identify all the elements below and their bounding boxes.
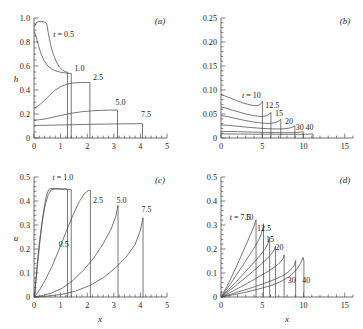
- y-tick-label: 0.5: [207, 173, 217, 182]
- x-tick-label: 2: [85, 301, 89, 310]
- curve-label: 2.5: [93, 196, 103, 205]
- panel-letter: (b): [340, 16, 351, 26]
- panel-letter: (c): [155, 175, 165, 185]
- y-tick-label: 1.0: [20, 14, 30, 23]
- curve-label: 2.5: [93, 73, 103, 82]
- curve-label: 7.5: [141, 110, 151, 119]
- x-tick-label: 3: [112, 301, 116, 310]
- y-tick-label: 0: [26, 134, 30, 143]
- y-tick-label: 0.2: [20, 110, 30, 119]
- curve-label: 10: [245, 213, 253, 222]
- curve-label: t = 0.5: [53, 30, 74, 39]
- curve-t-7.5: [221, 220, 256, 297]
- y-tick-label: 0: [26, 293, 30, 302]
- curve-t-40: [221, 134, 313, 138]
- curve-label: 20: [275, 243, 283, 252]
- y-tick-label: 0: [213, 134, 217, 143]
- panel-d: 05101500.10.20.30.40.5t = 7.51012.515203…: [181, 163, 363, 329]
- y-tick-label: 0.2: [207, 245, 217, 254]
- x-axis-title: x: [284, 314, 289, 324]
- y-tick-label: 0.1: [207, 269, 217, 278]
- curve-t-0.5: [35, 22, 68, 138]
- curve-label: 12.5: [257, 224, 271, 233]
- y-tick-label: 0.8: [20, 38, 30, 47]
- x-tick-label: 0: [32, 301, 36, 310]
- curve-t-15: [221, 116, 280, 138]
- y-tick-label: 0.2: [20, 245, 30, 254]
- curve-label: t = 10: [242, 91, 261, 100]
- curve-label: 7.5: [141, 205, 151, 214]
- y-tick-label: 0.20: [203, 38, 217, 47]
- curve-t-12.5: [221, 107, 271, 138]
- figure-container: 01234500.20.40.60.81.0t = 0.51.02.55.07.…: [0, 0, 363, 329]
- x-tick-label: 0: [219, 142, 223, 151]
- panel-a-plot: 01234500.20.40.60.81.0t = 0.51.02.55.07.…: [0, 0, 182, 165]
- x-tick-label: 15: [341, 301, 349, 310]
- curve-t-2.5: [35, 83, 90, 138]
- y-tick-label: 0.10: [203, 86, 217, 95]
- panel-d-plot: 05101500.10.20.30.40.5t = 7.51012.515203…: [181, 163, 363, 329]
- x-tick-label: 0: [32, 142, 36, 151]
- panel-a: 01234500.20.40.60.81.0t = 0.51.02.55.07.…: [0, 0, 182, 165]
- curve-label: 1.0: [74, 64, 84, 73]
- curve-t-5.0: [35, 205, 119, 297]
- y-tick-label: 0.4: [20, 86, 30, 95]
- curve-label: 5.0: [116, 196, 126, 205]
- x-tick-label: 5: [165, 142, 169, 151]
- curve-t-7.5: [35, 218, 144, 297]
- x-tick-label: 4: [138, 142, 142, 151]
- panel-letter: (a): [155, 16, 166, 26]
- x-tick-label: 10: [299, 142, 307, 151]
- curve-label: t = 1.0: [53, 173, 74, 182]
- panel-b-plot: 05101500.050.100.150.200.25t = 1012.5152…: [181, 0, 363, 165]
- x-tick-label: 10: [299, 301, 307, 310]
- y-axis-title: u: [14, 233, 19, 243]
- x-tick-label: 0: [219, 301, 223, 310]
- curve-label: 15: [266, 235, 274, 244]
- x-tick-label: 5: [165, 301, 169, 310]
- y-tick-label: 0.25: [203, 14, 217, 23]
- y-tick-label: 0.15: [203, 62, 217, 71]
- y-tick-label: 0.1: [20, 269, 30, 278]
- curve-label: 20: [285, 117, 293, 126]
- curve-label: 15: [275, 109, 283, 118]
- y-tick-label: 0.5: [20, 173, 30, 182]
- curve-label: 30: [296, 123, 304, 132]
- curve-label: 0.5: [59, 240, 69, 249]
- x-tick-label: 1: [59, 301, 63, 310]
- y-tick-label: 0.4: [207, 197, 217, 206]
- x-tick-label: 5: [260, 142, 264, 151]
- x-tick-label: 2: [85, 142, 89, 151]
- x-tick-label: 1: [59, 142, 63, 151]
- x-axis-title: x: [97, 314, 102, 324]
- x-tick-label: 5: [260, 301, 264, 310]
- panel-b: 05101500.050.100.150.200.25t = 1012.5152…: [181, 0, 363, 165]
- x-tick-label: 3: [112, 142, 116, 151]
- curve-label: 40: [302, 276, 310, 285]
- y-tick-label: 0.3: [207, 221, 217, 230]
- panel-c: 01234500.10.20.30.40.5t = 1.00.52.55.07.…: [0, 163, 182, 329]
- x-tick-label: 15: [341, 142, 349, 151]
- y-tick-label: 0.3: [20, 221, 30, 230]
- panel-letter: (d): [340, 175, 351, 185]
- y-tick-label: 0.4: [20, 197, 30, 206]
- y-tick-label: 0.6: [20, 62, 30, 71]
- x-tick-label: 4: [138, 301, 142, 310]
- y-tick-label: 0: [213, 293, 217, 302]
- y-axis-title: h: [14, 74, 19, 84]
- curve-label: 5.0: [115, 98, 125, 107]
- y-tick-label: 0.05: [203, 110, 217, 119]
- panel-c-plot: 01234500.10.20.30.40.5t = 1.00.52.55.07.…: [0, 163, 182, 329]
- curve-label: 40: [306, 123, 314, 132]
- curve-t-7.5: [35, 124, 143, 138]
